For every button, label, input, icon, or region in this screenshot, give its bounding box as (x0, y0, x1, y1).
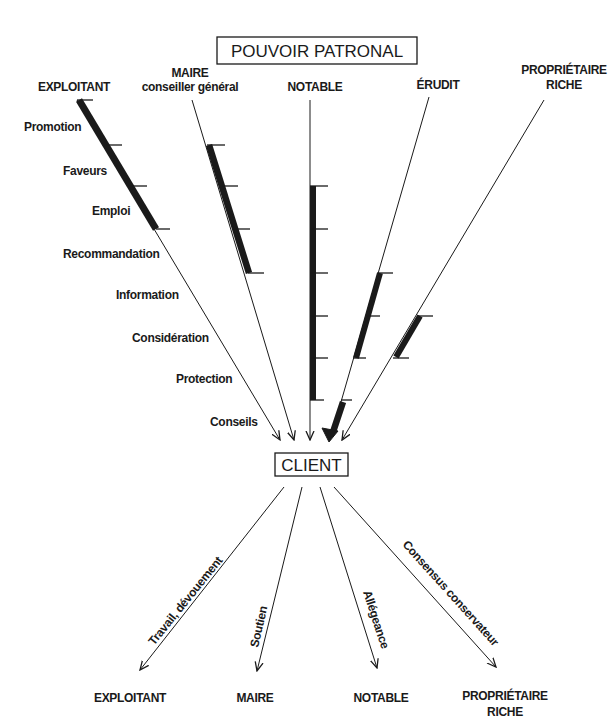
target-notable: NOTABLE (353, 691, 408, 705)
target-exploitant: EXPLOITANT (94, 691, 167, 705)
patronage-diagram: POUVOIR PATRONAL EXPLOITANT MAIRE consei… (0, 0, 613, 726)
arrow-proprietaire (342, 100, 544, 440)
return-target-labels: EXPLOITANT MAIRE NOTABLE PROPRIÉTAIRE RI… (94, 688, 548, 719)
flow-travail: Travail, dévouement (145, 554, 225, 648)
patron-labels: EXPLOITANT MAIRE conseiller général NOTA… (38, 62, 607, 94)
flow-allegeance: Allégeance (360, 589, 392, 651)
title-box: POUVOIR PATRONAL (217, 37, 417, 64)
resource-information: Information (116, 288, 179, 302)
patron-notable: NOTABLE (287, 80, 342, 94)
arrow-return-proprietaire (334, 487, 496, 667)
arrow-maire (192, 100, 294, 440)
client-text: CLIENT (281, 456, 341, 475)
flow-consensus: Consensus conservateur (400, 538, 502, 649)
patron-proprietaire-sub: RICHE (546, 78, 582, 92)
diagram-canvas: POUVOIR PATRONAL EXPLOITANT MAIRE consei… (0, 0, 613, 726)
patron-erudit: ÉRUDIT (417, 77, 461, 92)
patron-exploitant: EXPLOITANT (38, 80, 111, 94)
resource-promotion: Promotion (24, 120, 81, 134)
resource-protection: Protection (176, 372, 232, 386)
resource-faveurs: Faveurs (63, 164, 108, 178)
resource-labels: Promotion Faveurs Emploi Recommandation … (24, 120, 258, 429)
arrow-return-maire (257, 487, 302, 671)
title-text: POUVOIR PATRONAL (231, 42, 403, 61)
target-proprietaire-sub: RICHE (487, 705, 523, 719)
resource-conseils: Conseils (210, 415, 258, 429)
flow-soutien: Soutien (247, 605, 270, 649)
arrow-return-notable (320, 487, 377, 668)
client-box: CLIENT (275, 453, 348, 476)
patron-maire-sub: conseiller général (142, 80, 239, 94)
arrow-notable (310, 100, 328, 440)
return-flow-labels: Travail, dévouement Soutien Allégeance C… (145, 538, 502, 651)
resource-recommandation: Recommandation (63, 247, 159, 261)
target-maire: MAIRE (236, 691, 273, 705)
target-proprietaire: PROPRIÉTAIRE (462, 688, 548, 703)
arrow-erudit (322, 97, 429, 442)
patron-proprietaire: PROPRIÉTAIRE (521, 62, 607, 77)
resource-emploi: Emploi (92, 204, 130, 218)
resource-consideration: Considération (132, 331, 209, 345)
patron-maire: MAIRE (171, 66, 208, 80)
